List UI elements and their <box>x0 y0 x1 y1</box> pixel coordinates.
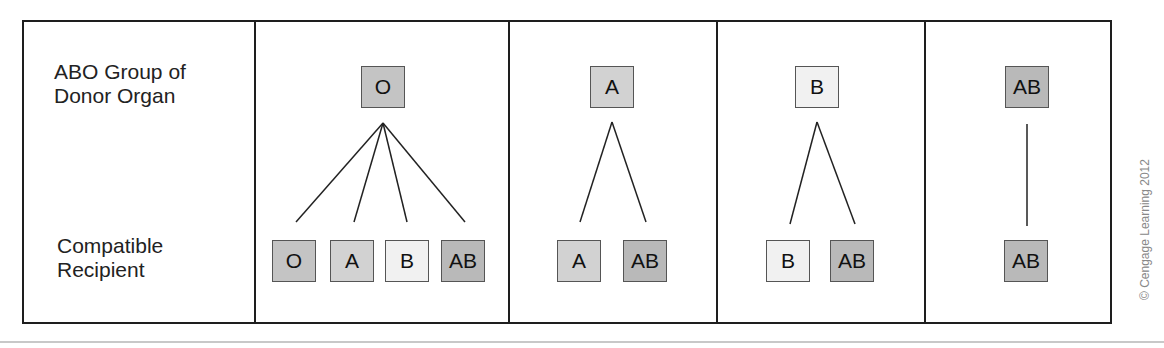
recipient-label-line1: Compatible <box>57 234 163 258</box>
recipient-row-label: Compatible Recipient <box>57 234 163 282</box>
donor-box-ab: AB <box>1005 66 1049 108</box>
copyright-credit: © Cengage Learning 2012 <box>1138 159 1152 300</box>
bottom-divider <box>0 341 1164 343</box>
recipient-box-ab: AB <box>441 240 485 282</box>
abo-compatibility-diagram: ABO Group of Donor Organ Compatible Reci… <box>22 20 1112 324</box>
donor-row-label: ABO Group of Donor Organ <box>54 60 186 108</box>
recipient-box-ab: AB <box>1004 240 1048 282</box>
group-b-panel: B B AB <box>718 22 926 322</box>
donor-box-a: A <box>590 66 634 108</box>
recipient-box-o: O <box>272 240 316 282</box>
donor-box-b: B <box>795 66 839 108</box>
recipient-box-b: B <box>385 240 429 282</box>
recipient-box-ab: AB <box>830 240 874 282</box>
recipient-label-line2: Recipient <box>57 258 163 282</box>
recipient-box-ab: AB <box>623 240 667 282</box>
recipient-box-b: B <box>766 240 810 282</box>
group-ab-panel: AB AB <box>926 22 1110 322</box>
group-o-panel: O O A B AB <box>256 22 510 322</box>
donor-label-line1: ABO Group of <box>54 60 186 84</box>
row-labels-column: ABO Group of Donor Organ Compatible Reci… <box>24 22 256 322</box>
recipient-box-a: A <box>330 240 374 282</box>
donor-label-line2: Donor Organ <box>54 84 186 108</box>
donor-box-o: O <box>361 66 405 108</box>
group-a-panel: A A AB <box>510 22 718 322</box>
recipient-box-a: A <box>557 240 601 282</box>
